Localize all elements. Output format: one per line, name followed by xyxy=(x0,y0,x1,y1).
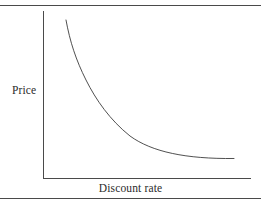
price-curve xyxy=(66,20,234,159)
figure-container: Price Discount rate xyxy=(0,0,261,206)
plot-area xyxy=(0,0,261,206)
x-axis-label: Discount rate xyxy=(0,183,261,195)
bottom-divider-rule xyxy=(0,198,261,199)
y-axis-label: Price xyxy=(12,85,36,97)
